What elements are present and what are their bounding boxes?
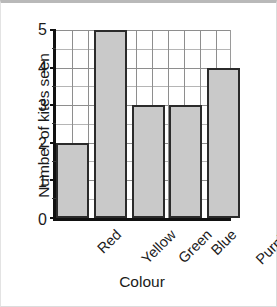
y-tick-label-1: 1: [31, 174, 47, 190]
y-tick-0: [50, 217, 56, 219]
y-tick-label-5: 5: [31, 22, 47, 38]
x-tick-label-yellow: Yellow: [139, 227, 179, 267]
y-tick-label-4: 4: [31, 60, 47, 76]
y-tick-minor-0.5: [52, 198, 56, 199]
x-tick-label-blue: Blue: [209, 227, 240, 258]
y-tick-minor-4.5: [52, 48, 56, 49]
plot-area: [53, 30, 231, 221]
y-tick-label-0: 0: [31, 212, 47, 228]
y-tick-2: [50, 142, 56, 144]
x-tick-label-purple: Purple: [253, 227, 277, 267]
y-tick-label-2: 2: [31, 136, 47, 152]
y-tick-minor-2.5: [52, 123, 56, 124]
gridline-h-4.5: [56, 49, 231, 50]
y-tick-minor-3.5: [52, 86, 56, 87]
x-axis-title: Colour: [53, 273, 231, 291]
bar-blue[interactable]: [169, 105, 202, 218]
x-tick-label-red: Red: [95, 227, 124, 256]
y-tick-4: [50, 67, 56, 69]
gridline-h-4.0: [56, 68, 231, 69]
y-tick-minor-1.5: [52, 161, 56, 162]
y-tick-1: [50, 179, 56, 181]
bar-red[interactable]: [56, 143, 89, 218]
bar-yellow[interactable]: [94, 30, 127, 218]
gridline-h-5.0: [56, 30, 231, 31]
y-tick-label-3: 3: [31, 98, 47, 114]
y-tick-3: [50, 104, 56, 106]
bar-chart-figure: Number of kites seen 5 4 3 2 1 0: [0, 0, 277, 307]
y-tick-5: [50, 29, 56, 31]
bar-green[interactable]: [132, 105, 165, 218]
bar-purple[interactable]: [207, 68, 240, 218]
gridline-h-3.5: [56, 86, 231, 87]
